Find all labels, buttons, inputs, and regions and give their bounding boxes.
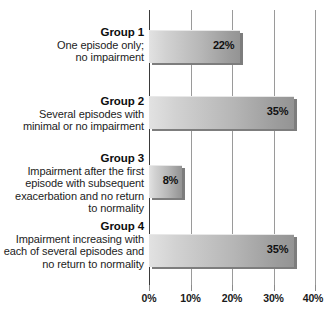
category-description-line: exacerbation and no return [0,190,144,203]
category-label-group-4: Group 4 Impairment increasing with each … [0,220,144,270]
bar-chart: Group 1 One episode only; no impairment … [0,0,328,311]
bar-value-group-4: 35% [149,243,288,255]
category-title: Group 3 [0,152,144,165]
plot-area: 22% 35% 8% 35% [149,10,315,285]
category-description-line: Impairment after the first [0,165,144,178]
x-axis-tick-label-0: 0% [129,292,169,304]
category-description-line: episode with subsequent [0,177,144,190]
category-description-line: each of several episodes and [0,245,144,258]
category-description-line: to normality [0,202,144,215]
x-axis-tick-label-10: 10% [171,292,211,304]
category-description-line: minimal or no impairment [0,120,144,133]
bar-value-group-3: 8% [149,174,178,186]
gridline-40 [315,10,316,285]
tick-mark-10 [191,285,192,291]
category-title: Group 2 [0,95,144,108]
tick-mark-40 [315,285,316,291]
bar-value-group-1: 22% [149,39,234,51]
category-title: Group 4 [0,220,144,233]
tick-mark-30 [274,285,275,291]
category-label-group-3: Group 3 Impairment after the first episo… [0,152,144,215]
category-title: Group 1 [0,26,144,39]
x-axis-tick-label-40: 40% [293,292,328,304]
x-axis-tick-label-30: 30% [254,292,294,304]
category-description-line: One episode only; [0,39,144,52]
category-label-group-1: Group 1 One episode only; no impairment [0,26,144,64]
category-description-line: Impairment increasing with [0,233,144,246]
x-axis-tick-label-20: 20% [212,292,252,304]
category-label-group-2: Group 2 Several episodes with minimal or… [0,95,144,133]
category-description-line: Several episodes with [0,108,144,121]
category-description-line: no impairment [0,51,144,64]
tick-mark-0 [149,285,150,291]
tick-mark-20 [232,285,233,291]
category-description-line: no return to normality [0,258,144,271]
bar-value-group-2: 35% [149,105,288,117]
